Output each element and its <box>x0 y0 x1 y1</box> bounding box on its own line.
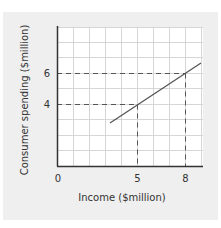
plot-area <box>57 27 203 166</box>
x-axis-label: Income ($million) <box>78 192 166 203</box>
y-axis-label: Consumer spending ($million) <box>19 25 30 176</box>
x-tick-8: 8 <box>182 173 188 184</box>
y-tick-6: 6 <box>44 68 50 79</box>
consumption-chart: 0 5 8 4 6 Income ($million) Consumer spe… <box>0 0 221 228</box>
x-tick-5: 5 <box>134 173 140 184</box>
y-tick-4: 4 <box>44 99 50 110</box>
x-tick-0: 0 <box>55 173 61 184</box>
